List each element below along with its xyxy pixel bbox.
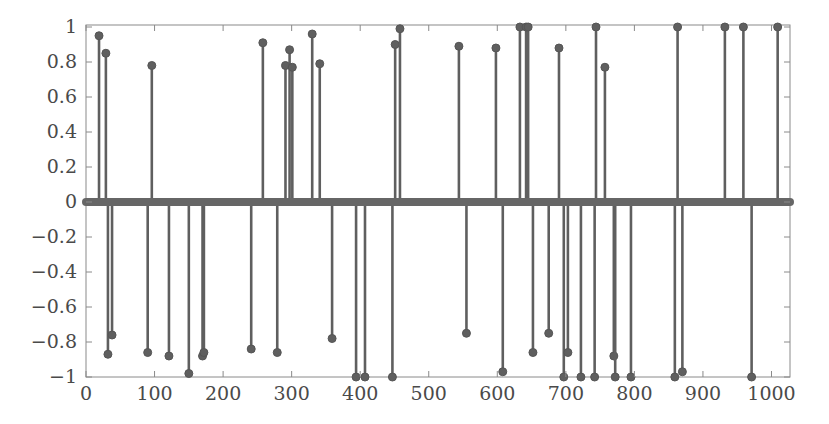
x-tick-label: 200	[205, 382, 241, 404]
stem-marker	[739, 23, 747, 31]
y-tick-label: −0.8	[31, 330, 77, 352]
stem-marker	[591, 373, 599, 381]
stem-marker	[361, 373, 369, 381]
y-tick-label: 1	[65, 15, 77, 37]
stem-marker	[611, 373, 619, 381]
stem-marker	[185, 370, 193, 378]
stem-marker	[165, 352, 173, 360]
stem-marker	[104, 350, 112, 358]
stem-marker	[95, 32, 103, 40]
y-tick-label: 0.6	[47, 85, 77, 107]
y-tick-label: −0.2	[31, 225, 77, 247]
x-tick-label: 600	[479, 382, 515, 404]
stem-marker	[288, 63, 296, 71]
x-tick-label: 800	[616, 382, 652, 404]
y-tick-label: 0.2	[47, 155, 77, 177]
stem-marker	[455, 42, 463, 50]
x-tick-label: 1000	[747, 382, 795, 404]
stem-marker	[108, 331, 116, 339]
stem-marker	[144, 349, 152, 357]
stem-marker	[577, 373, 585, 381]
y-tick-label: −0.6	[31, 295, 77, 317]
stem-marker	[671, 373, 679, 381]
x-tick-label: 500	[411, 382, 447, 404]
stem-marker	[555, 44, 563, 52]
stem-marker	[200, 349, 208, 357]
stem-marker	[462, 329, 470, 337]
x-tick-label: 900	[685, 382, 721, 404]
stem-marker	[601, 63, 609, 71]
stem-marker	[721, 23, 729, 31]
stem-marker	[524, 23, 532, 31]
stem-marker	[247, 345, 255, 353]
y-tick-label: 0.4	[47, 120, 77, 142]
stem-marker	[529, 349, 537, 357]
stem-marker	[316, 60, 324, 68]
y-tick-label: 0.8	[47, 50, 77, 72]
stem-marker	[564, 349, 572, 357]
stem-marker	[748, 373, 756, 381]
stem-marker	[328, 335, 336, 343]
stem-marker	[308, 30, 316, 38]
stem-marker	[674, 23, 682, 31]
x-tick-label: 0	[80, 382, 92, 404]
x-tick-label: 400	[342, 382, 378, 404]
stem-marker	[286, 46, 294, 54]
x-axis: 01002003004005006007008009001000	[80, 25, 796, 404]
stem-marker	[352, 373, 360, 381]
stem-marker	[545, 329, 553, 337]
stem-marker	[678, 368, 686, 376]
stem-marker	[388, 373, 396, 381]
stem-chart: 10.80.60.40.20−0.2−0.4−0.6−0.8−1 0100200…	[0, 0, 829, 424]
stem-marker	[492, 44, 500, 52]
stem-marker	[499, 368, 507, 376]
x-tick-label: 100	[136, 382, 172, 404]
stem-marker	[610, 352, 618, 360]
stem-marker	[560, 373, 568, 381]
stem-marker	[273, 349, 281, 357]
stem-marker	[627, 373, 635, 381]
x-tick-label: 700	[548, 382, 584, 404]
stem-marker	[259, 39, 267, 47]
stem-marker	[396, 25, 404, 33]
stem-marker	[102, 49, 110, 57]
stem-marker	[592, 23, 600, 31]
y-tick-label: 0	[65, 190, 77, 212]
stem-marker	[148, 62, 156, 70]
y-tick-label: −1	[49, 365, 77, 387]
y-tick-label: −0.4	[31, 260, 77, 282]
stem-marker	[774, 23, 782, 31]
x-tick-label: 300	[274, 382, 310, 404]
stem-marker	[391, 41, 399, 49]
